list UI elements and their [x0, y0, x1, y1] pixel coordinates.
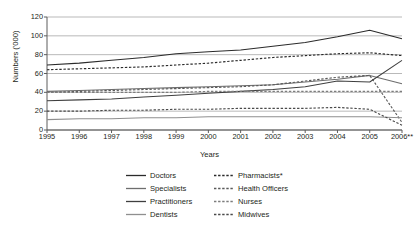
chart-legend: DoctorsPharmacists*SpecialistsHealth Off…	[126, 169, 341, 221]
y-axis-tick-label: 60	[35, 70, 43, 77]
y-axis-tick-label: 20	[35, 107, 43, 114]
legend-dashed-line-icon	[214, 211, 234, 218]
series-line-practitioners	[47, 60, 402, 100]
legend-label: Nurses	[238, 198, 262, 206]
legend-label: Practitioners	[150, 198, 192, 206]
x-axis-tick-label: 1998	[136, 133, 152, 141]
series-line-specialists	[47, 75, 402, 91]
legend-label: Health Officers	[238, 185, 288, 193]
x-axis-tick-label: 2006**	[391, 133, 413, 141]
y-axis-tick-label: 80	[35, 51, 43, 58]
legend-label: Pharmacists*	[238, 172, 283, 180]
y-axis-tick-labels: 020406080100120	[0, 0, 43, 145]
x-axis-tick-label: 1996	[71, 133, 87, 141]
legend-dashed-line-icon	[214, 198, 234, 205]
y-axis-tick-label: 40	[35, 88, 43, 95]
legend-label: Specialists	[150, 185, 186, 193]
x-axis-tick-label: 1999	[168, 133, 184, 141]
x-axis-tick-labels: 1995199619971998199920002001200220032004…	[47, 133, 402, 145]
y-axis-tick-label: 120	[31, 13, 43, 20]
legend-item-practitioners[interactable]: Practitioners	[126, 195, 214, 208]
legend-solid-line-icon	[126, 198, 146, 205]
x-axis-title: Years	[0, 150, 419, 159]
x-axis-tick-label: 2000	[200, 133, 216, 141]
legend-item-nurses[interactable]: Nurses	[214, 195, 341, 208]
series-line-nurses	[47, 91, 402, 92]
legend-item-doctors[interactable]: Doctors	[126, 169, 214, 182]
legend-solid-line-icon	[126, 172, 146, 179]
legend-label: Doctors	[150, 172, 176, 180]
legend-dashed-line-icon	[214, 185, 234, 192]
x-axis-tick-label: 2005	[361, 133, 377, 141]
x-axis-tick-label: 2001	[232, 133, 248, 141]
legend-item-dentists[interactable]: Dentists	[126, 208, 214, 221]
series-line-pharmacists	[47, 53, 402, 70]
legend-label: Dentists	[150, 211, 177, 219]
x-axis-tick-label: 1995	[39, 133, 55, 141]
x-axis-tick-label: 2003	[297, 133, 313, 141]
legend-solid-line-icon	[126, 211, 146, 218]
x-axis-tick-label: 1997	[103, 133, 119, 141]
chart-figure: 020406080100120 Numbers ('000) 199519961…	[0, 0, 419, 227]
y-axis-tick-label: 100	[31, 32, 43, 39]
x-axis-tick-label: 2004	[329, 133, 345, 141]
legend-item-specialists[interactable]: Specialists	[126, 182, 214, 195]
legend-dashed-line-icon	[214, 172, 234, 179]
legend-item-pharmacists[interactable]: Pharmacists*	[214, 169, 341, 182]
legend-label: Midwives	[238, 211, 269, 219]
y-axis-title: Numbers ('000)	[11, 14, 20, 100]
series-line-midwives	[47, 107, 402, 125]
legend-solid-line-icon	[126, 185, 146, 192]
legend-item-midwives[interactable]: Midwives	[214, 208, 341, 221]
series-line-dentists	[47, 117, 402, 120]
series-line-doctors	[47, 30, 402, 65]
series-line-health-officers	[47, 75, 402, 122]
x-axis-tick-label: 2002	[265, 133, 281, 141]
legend-item-health-officers[interactable]: Health Officers	[214, 182, 341, 195]
